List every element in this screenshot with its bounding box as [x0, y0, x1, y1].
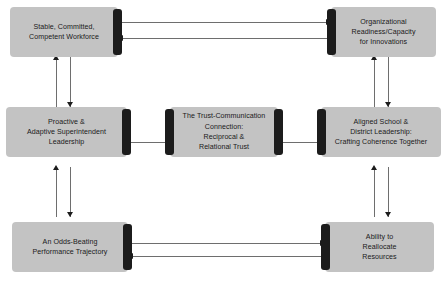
node-performance-trajectory[interactable]: An Odds-Beating Performance Trajectory: [12, 222, 128, 272]
node-performance-trajectory-shadow: [123, 224, 132, 270]
connector-trust-to-aligned-line: [283, 142, 321, 143]
connector-workforce-to-org-line-upper: [118, 22, 331, 23]
node-trust-communication-shadow-left: [165, 109, 174, 155]
node-trust-communication-label-line2: Connection:: [205, 123, 243, 131]
node-org-readiness-shadow: [327, 9, 336, 55]
node-superintendent-leadership[interactable]: Proactive & Adaptive Superintendent Lead…: [6, 107, 127, 157]
node-aligned-leadership-label-line2: District Leadership:: [350, 128, 412, 136]
connector-superintendent-to-performance-line-left: [56, 167, 57, 217]
node-performance-trajectory-label-line2: Performance Trajectory: [33, 248, 108, 256]
node-superintendent-leadership-label-line3: Leadership: [49, 138, 85, 146]
node-workforce-label-line1: Stable, Committed,: [33, 23, 94, 31]
node-org-readiness-label-line3: for Innovations: [360, 38, 407, 46]
connector-aligned-to-resources-line-left: [374, 167, 375, 217]
node-trust-communication-shadow-right: [274, 109, 283, 155]
node-org-readiness-label: Organizational Readiness/Capacity for In…: [337, 17, 430, 48]
node-reallocate-resources[interactable]: Ability to Reallocate Resources: [325, 222, 434, 272]
connector-org-to-aligned-line-left: [374, 57, 375, 107]
node-reallocate-resources-label-line1: Ability to: [366, 233, 393, 241]
connector-superintendent-to-performance-line-right: [70, 167, 71, 217]
node-workforce-label-line2: Competent Workforce: [29, 33, 99, 41]
node-superintendent-leadership-label-line2: Adaptive Superintendent: [27, 128, 106, 136]
node-trust-communication[interactable]: The Trust-Communication Connection: Reci…: [170, 107, 278, 157]
node-reallocate-resources-label-line3: Resources: [362, 253, 396, 261]
node-trust-communication-label-line4: Relational Trust: [199, 143, 249, 151]
node-trust-communication-label: The Trust-Communication Connection: Reci…: [176, 111, 272, 152]
node-aligned-leadership-label-line1: Aligned School &: [354, 118, 409, 126]
node-workforce[interactable]: Stable, Committed, Competent Workforce: [10, 7, 118, 57]
node-superintendent-leadership-label-line1: Proactive &: [48, 118, 85, 126]
connector-workforce-to-org-line-lower: [118, 38, 331, 39]
node-org-readiness[interactable]: Organizational Readiness/Capacity for In…: [331, 7, 436, 57]
node-reallocate-resources-label-line2: Reallocate: [362, 243, 396, 251]
node-aligned-leadership-shadow: [317, 109, 326, 155]
connector-superintendent-to-performance-arrow-down: [67, 212, 73, 217]
node-workforce-shadow: [113, 9, 122, 55]
node-trust-communication-label-line3: Reciprocal &: [204, 133, 245, 141]
node-superintendent-leadership-shadow: [122, 109, 131, 155]
connector-performance-to-resources-line-upper: [128, 243, 326, 244]
connector-performance-to-resources-line-lower: [128, 256, 326, 257]
node-superintendent-leadership-label: Proactive & Adaptive Superintendent Lead…: [12, 117, 121, 148]
node-workforce-label: Stable, Committed, Competent Workforce: [16, 22, 112, 43]
connector-superintendent-to-trust-line: [128, 142, 166, 143]
connector-workforce-to-superintendent-line-left: [56, 57, 57, 107]
node-org-readiness-label-line1: Organizational: [360, 18, 406, 26]
node-performance-trajectory-label-line1: An Odds-Beating: [43, 238, 98, 246]
diagram-canvas: Stable, Committed, Competent Workforce O…: [0, 0, 445, 283]
node-trust-communication-label-line1: The Trust-Communication: [183, 112, 266, 120]
node-aligned-leadership[interactable]: Aligned School & District Leadership: Cr…: [321, 107, 441, 157]
node-aligned-leadership-label: Aligned School & District Leadership: Cr…: [327, 117, 435, 148]
connector-workforce-to-superintendent-line-right: [70, 57, 71, 107]
node-reallocate-resources-shadow: [321, 224, 330, 270]
connector-aligned-to-resources-arrow-down: [385, 212, 391, 217]
node-aligned-leadership-label-line3: Crafting Coherence Together: [335, 138, 427, 146]
connector-superintendent-to-performance-arrow-up: [53, 165, 59, 170]
connector-aligned-to-resources-line-right: [388, 167, 389, 217]
connector-org-to-aligned-line-right: [388, 57, 389, 107]
node-performance-trajectory-label: An Odds-Beating Performance Trajectory: [18, 237, 122, 258]
node-org-readiness-label-line2: Readiness/Capacity: [352, 28, 416, 36]
node-reallocate-resources-label: Ability to Reallocate Resources: [331, 232, 428, 263]
connector-aligned-to-resources-arrow-up: [371, 165, 377, 170]
